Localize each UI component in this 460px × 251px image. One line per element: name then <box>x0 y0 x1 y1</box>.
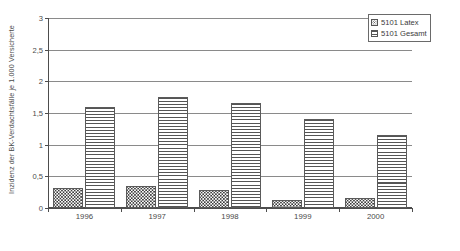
y-tick-label: 0 <box>39 204 43 213</box>
x-tick-label: 1998 <box>221 212 238 221</box>
bar-group <box>339 18 412 208</box>
y-axis-title: Inzidenz der BK-Verdachtsfälle je 1.000 … <box>0 0 22 218</box>
legend-swatch-icon <box>371 30 378 37</box>
legend-item: 5101 Gesamt <box>371 28 427 39</box>
y-axis-tick-labels: 00,511,522,53 <box>22 18 46 208</box>
bar-latex-1998 <box>199 190 229 208</box>
y-tick-label: 1,5 <box>32 109 43 118</box>
gridline <box>48 208 412 209</box>
y-tick-label: 0,5 <box>32 172 43 181</box>
bar-group <box>48 18 121 208</box>
y-tick-label: 3 <box>39 14 43 23</box>
bar-latex-1996 <box>53 188 83 208</box>
legend-item-label: 5101 Gesamt <box>381 29 427 38</box>
legend-swatch-icon <box>371 19 378 26</box>
x-tick-label: 2000 <box>367 212 384 221</box>
bar-group <box>266 18 339 208</box>
bar-chart: Inzidenz der BK-Verdachtsfälle je 1.000 … <box>0 0 460 251</box>
bar-gesamt-1997 <box>158 97 188 208</box>
bar-latex-2000 <box>345 198 375 208</box>
bar-latex-1999 <box>272 200 302 208</box>
bar-gesamt-1996 <box>85 107 115 208</box>
bar-latex-1997 <box>126 186 156 208</box>
x-axis-tick-labels: 19961997199819992000 <box>48 212 412 228</box>
y-tick-label: 2,5 <box>32 45 43 54</box>
legend-item: 5101 Latex <box>371 17 427 28</box>
plot-area <box>48 18 412 208</box>
x-tick-label: 1997 <box>149 212 166 221</box>
x-tickmark <box>412 208 413 212</box>
bar-gesamt-1998 <box>231 103 261 208</box>
y-tick-label: 1 <box>39 140 43 149</box>
bar-gesamt-1999 <box>304 119 334 208</box>
legend: 5101 Latex5101 Gesamt <box>368 14 431 42</box>
legend-item-label: 5101 Latex <box>381 18 419 27</box>
y-axis-title-text: Inzidenz der BK-Verdachtsfälle je 1.000 … <box>7 25 16 194</box>
bars-layer <box>48 18 412 208</box>
bar-gesamt-2000 <box>377 135 407 208</box>
bar-group <box>194 18 267 208</box>
x-tick-label: 1999 <box>294 212 311 221</box>
y-tick-label: 2 <box>39 77 43 86</box>
bar-group <box>121 18 194 208</box>
x-tick-label: 1996 <box>76 212 93 221</box>
